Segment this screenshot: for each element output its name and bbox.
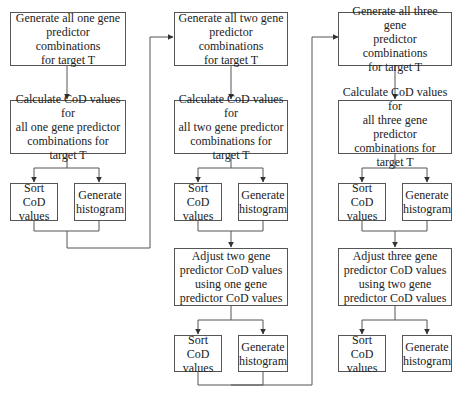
histogram-three-gene-adjusted-label: Generate histogram — [403, 340, 451, 368]
histogram-three-gene-adjusted-box: Generate histogram — [402, 335, 452, 372]
sort-three-gene-label: Sort CoD values — [342, 181, 382, 223]
generate-three-gene-label: Generate all three gene predictor combin… — [342, 4, 448, 74]
calculate-one-gene-box: Calculate CoD values for all one gene pr… — [10, 100, 126, 154]
calculate-three-gene-label: Calculate CoD values for all three gene … — [342, 85, 448, 169]
sort-two-gene-box: Sort CoD values — [174, 183, 222, 221]
histogram-one-gene-label: Generate histogram — [76, 188, 124, 216]
sort-one-gene-label: Sort CoD values — [14, 181, 54, 223]
generate-two-gene-label: Generate all two gene predictor combinat… — [178, 11, 284, 67]
calculate-three-gene-box: Calculate CoD values for all three gene … — [338, 100, 452, 154]
sort-two-gene-adjusted-label: Sort CoD values — [178, 333, 218, 375]
adjust-two-gene-box: Adjust two gene predictor CoD values usi… — [174, 248, 288, 306]
histogram-three-gene-label: Generate histogram — [403, 188, 451, 216]
histogram-two-gene-adjusted-box: Generate histogram — [238, 335, 288, 372]
sort-three-gene-adjusted-label: Sort CoD values — [342, 333, 382, 375]
histogram-three-gene-box: Generate histogram — [402, 183, 452, 221]
generate-two-gene-box: Generate all two gene predictor combinat… — [174, 12, 288, 66]
adjust-three-gene-label: Adjust three gene predictor CoD values u… — [344, 249, 447, 305]
sort-two-gene-label: Sort CoD values — [178, 181, 218, 223]
sort-one-gene-box: Sort CoD values — [10, 183, 58, 221]
histogram-two-gene-adjusted-label: Generate histogram — [239, 340, 287, 368]
histogram-one-gene-box: Generate histogram — [74, 183, 126, 221]
flowchart: Generate all one gene predictor combinat… — [0, 0, 466, 394]
adjust-three-gene-box: Adjust three gene predictor CoD values u… — [338, 248, 452, 306]
sort-three-gene-box: Sort CoD values — [338, 183, 386, 221]
generate-one-gene-box: Generate all one gene predictor combinat… — [10, 12, 126, 66]
calculate-one-gene-label: Calculate CoD values for all one gene pr… — [14, 92, 122, 162]
generate-three-gene-box: Generate all three gene predictor combin… — [338, 12, 452, 66]
calculate-two-gene-label: Calculate CoD values for all two gene pr… — [178, 92, 284, 162]
calculate-two-gene-box: Calculate CoD values for all two gene pr… — [174, 100, 288, 154]
generate-one-gene-label: Generate all one gene predictor combinat… — [14, 11, 122, 67]
adjust-two-gene-label: Adjust two gene predictor CoD values usi… — [180, 249, 283, 305]
histogram-two-gene-label: Generate histogram — [239, 188, 287, 216]
sort-three-gene-adjusted-box: Sort CoD values — [338, 335, 386, 372]
histogram-two-gene-box: Generate histogram — [238, 183, 288, 221]
sort-two-gene-adjusted-box: Sort CoD values — [174, 335, 222, 372]
